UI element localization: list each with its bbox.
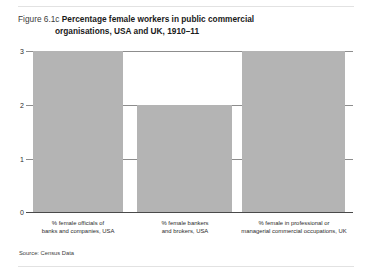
category-labels: % female officials of banks and companie… — [0, 219, 371, 245]
bar-chart-plot: 3 2 1 0 — [0, 44, 371, 219]
category-label-2: % female bankers and brokers, USA — [135, 219, 235, 236]
category-label-1-line1: % female officials of — [28, 219, 128, 227]
bottom-divider — [18, 266, 354, 267]
figure-title-line2: organisations, USA and UK, 1910–11 — [55, 26, 358, 38]
bar-professional-managerial-uk — [242, 51, 345, 212]
category-label-2-line2: and brokers, USA — [135, 227, 235, 235]
figure-number: Figure 6.1c — [18, 14, 60, 24]
top-divider — [18, 6, 354, 7]
category-label-3-line2: managerial commercial occupations, UK — [238, 227, 350, 235]
bar-officials-banks-companies-usa — [33, 51, 123, 212]
figure-caption: Figure 6.1c Percentage female workers in… — [18, 14, 358, 37]
category-label-3: % female in professional or managerial c… — [238, 219, 350, 236]
category-label-1-line2: banks and companies, USA — [28, 227, 128, 235]
bar-bankers-brokers-usa — [137, 105, 232, 212]
bars-layer — [0, 44, 371, 219]
category-label-2-line1: % female bankers — [135, 219, 235, 227]
figure-container: Figure 6.1c Percentage female workers in… — [0, 0, 371, 278]
category-label-3-line1: % female in professional or — [238, 219, 350, 227]
figure-title-line1: Percentage female workers in public comm… — [62, 14, 254, 24]
category-label-1: % female officials of banks and companie… — [28, 219, 128, 236]
source-note: Source: Census Data — [19, 250, 74, 256]
